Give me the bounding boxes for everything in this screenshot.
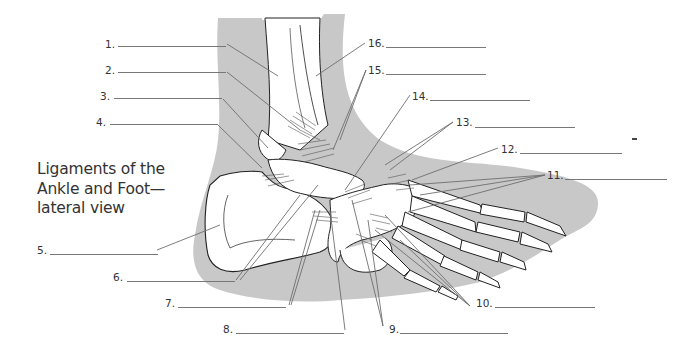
answer-blank-3[interactable] [114, 98, 222, 99]
answer-blank-12[interactable] [520, 153, 622, 154]
label-number-5: 5. [37, 244, 47, 256]
answer-blank-1[interactable] [118, 46, 226, 47]
answer-blank-8[interactable] [236, 333, 344, 334]
answer-blank-15[interactable] [386, 74, 486, 75]
label-number-8: 8. [223, 323, 233, 335]
label-number-14: 14. [412, 90, 429, 102]
answer-blank-10[interactable] [495, 307, 595, 308]
label-number-13: 13. [456, 116, 473, 128]
answer-blank-16[interactable] [386, 47, 486, 48]
answer-blank-7[interactable] [178, 307, 286, 308]
stray-mark [632, 138, 637, 140]
tibia-fibula [265, 18, 328, 150]
answer-blank-9[interactable] [400, 333, 508, 334]
label-number-4: 4. [96, 116, 106, 128]
answer-blank-4[interactable] [110, 124, 218, 125]
label-number-1: 1. [105, 38, 115, 50]
label-number-3: 3. [100, 90, 110, 102]
answer-blank-11[interactable] [565, 179, 667, 180]
label-number-6: 6. [113, 271, 123, 283]
answer-blank-14[interactable] [430, 100, 530, 101]
label-number-10: 10. [476, 297, 493, 309]
label-number-2: 2. [105, 64, 115, 76]
label-number-12: 12. [501, 143, 518, 155]
title-line-3: lateral view [37, 199, 165, 219]
answer-blank-2[interactable] [118, 72, 226, 73]
label-number-7: 7. [165, 297, 175, 309]
answer-blank-6[interactable] [127, 281, 235, 282]
label-number-16: 16. [368, 37, 385, 49]
label-number-15: 15. [368, 64, 385, 76]
answer-blank-5[interactable] [50, 254, 158, 255]
title-line-2: Ankle and Foot— [37, 180, 165, 200]
label-number-11: 11. [547, 169, 564, 181]
ankle-foot-ligament-diagram: Ligaments of the Ankle and Foot— lateral… [0, 0, 699, 352]
label-number-9: 9. [389, 323, 399, 335]
title-line-1: Ligaments of the [37, 160, 165, 180]
answer-blank-13[interactable] [475, 127, 575, 128]
diagram-title: Ligaments of the Ankle and Foot— lateral… [37, 160, 165, 219]
